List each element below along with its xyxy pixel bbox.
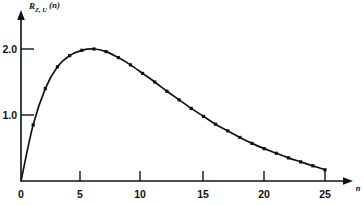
x-axis	[21, 177, 353, 185]
x-tick-label-5: 5	[77, 188, 83, 200]
data-point-marker	[177, 98, 180, 101]
data-point-marker	[202, 115, 205, 118]
x-tick-marks	[80, 171, 325, 181]
data-point-marker	[250, 142, 253, 145]
correlation-plot-svg: 2.0 1.0 0 5 10 15 20 25 n R Z, U (n)	[0, 0, 364, 205]
y-tick-label-2: 2.0	[2, 43, 17, 55]
x-tick-label-0: 0	[18, 188, 24, 200]
data-point-marker	[32, 123, 35, 126]
y-axis-arrowhead	[17, 10, 25, 20]
data-point-marker	[92, 47, 95, 50]
y-axis-label-argument: (n)	[49, 0, 60, 10]
data-point-marker	[299, 160, 302, 163]
y-axis-label-subscript: Z, U	[34, 6, 47, 13]
x-axis-label: n	[356, 183, 361, 193]
data-point-marker	[311, 164, 314, 167]
data-point-markers	[32, 47, 327, 171]
data-point-marker	[263, 147, 266, 150]
data-point-marker	[56, 65, 59, 68]
data-point-marker	[44, 87, 47, 90]
data-point-marker	[287, 156, 290, 159]
data-point-marker	[117, 56, 120, 59]
data-point-marker	[141, 72, 144, 75]
data-point-marker	[129, 63, 132, 66]
data-point-marker	[80, 49, 83, 52]
y-tick-label-1: 1.0	[2, 109, 17, 121]
x-axis-arrowhead	[343, 177, 353, 185]
x-tick-label-10: 10	[134, 188, 146, 200]
data-point-marker	[275, 152, 278, 155]
data-point-marker	[153, 80, 156, 83]
data-point-marker	[226, 129, 229, 132]
data-point-marker	[68, 54, 71, 57]
y-axis	[17, 10, 25, 181]
x-tick-label-15: 15	[197, 188, 209, 200]
data-curve	[21, 49, 325, 181]
y-axis-label: R Z, U (n)	[28, 0, 60, 13]
data-point-marker	[165, 90, 168, 93]
x-tick-label-20: 20	[258, 188, 270, 200]
data-point-marker	[214, 123, 217, 126]
y-axis-label-main: R	[28, 1, 35, 11]
chart-figure: 2.0 1.0 0 5 10 15 20 25 n R Z, U (n)	[0, 0, 364, 205]
data-point-marker	[190, 107, 193, 110]
data-point-marker	[105, 50, 108, 53]
y-tick-marks	[21, 49, 34, 115]
data-point-marker	[238, 136, 241, 139]
data-point-marker	[323, 168, 326, 171]
x-tick-label-25: 25	[319, 188, 331, 200]
